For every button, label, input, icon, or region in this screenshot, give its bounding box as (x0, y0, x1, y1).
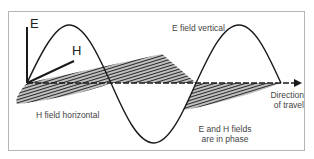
phase-label-line2: are in phase (190, 135, 260, 145)
e-field-label: E field vertical (172, 24, 225, 33)
in-phase-label: E and H fields are in phase (190, 125, 260, 145)
diagram-canvas (0, 0, 314, 159)
e-axis-label: E (30, 17, 39, 30)
em-wave-diagram: E H E field vertical H field horizontal … (0, 0, 314, 159)
h-field-label: H field horizontal (36, 111, 99, 120)
h-axis-label: H (72, 44, 81, 57)
direction-label-line2: of travel (254, 101, 304, 111)
h-field-wave (16, 54, 281, 110)
direction-of-travel-label: Direction of travel (254, 91, 304, 111)
direction-arrow-icon (294, 79, 302, 87)
